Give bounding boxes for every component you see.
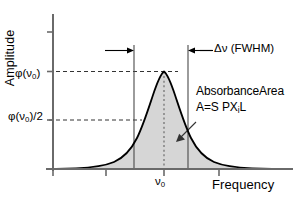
fwhm-label-text: Δν (FWHM) [214, 42, 274, 54]
fwhm-left-arrow [105, 48, 134, 54]
x-axis-title-text: Frequency [212, 177, 274, 192]
fwhm-annotation-label: Δν (FWHM) [214, 43, 274, 55]
nu-zero-subscript: 0 [161, 180, 165, 189]
y-axis-title: Amplitude [3, 10, 17, 106]
phi-half-prefix: φ(ν [8, 110, 25, 122]
y-tick-label-peak-amplitude: φ(ν0) [15, 68, 40, 81]
phi-half-suffix: )/2 [29, 110, 42, 122]
y-tick-label-half-amplitude: φ(ν0)/2 [8, 111, 43, 124]
absorbance-area-text: AbsorbanceArea [196, 84, 284, 98]
lineshape-figure: Amplitude Frequency φ(ν0) φ(ν0)/2 ν0 Δν … [0, 0, 305, 201]
formula-suffix: L [239, 100, 246, 114]
formula-prefix: A=S PX [196, 100, 238, 114]
absorbance-area-formula: A=S PXiL [196, 101, 246, 115]
x-axis-title: Frequency [212, 178, 274, 191]
absorbance-area-label: AbsorbanceArea [196, 85, 284, 97]
plot-canvas [0, 0, 305, 201]
x-tick-label-center-frequency: ν0 [155, 176, 165, 189]
phi-peak-suffix: ) [36, 67, 40, 79]
phi-peak-prefix: φ(ν [15, 67, 32, 79]
